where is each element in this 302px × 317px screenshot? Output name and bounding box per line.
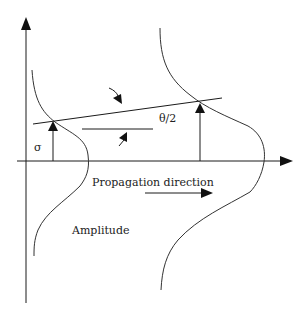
angle-lower-arrow-shaft [119,140,124,146]
vertical-axis-arrow-icon [21,17,31,30]
horizontal-axis-arrow-icon [280,156,293,166]
sigma-label: σ [34,141,42,154]
right-amplitude-curve [160,28,264,290]
tilted-wavefront-line [33,98,222,124]
angle-upper-arrow-shaft [109,88,118,96]
pulse-tilt-diagram: σ θ/2 Propagation direction Amplitude [0,0,302,317]
amplitude-label: Amplitude [71,224,130,237]
propagation-arrow-icon [201,188,213,198]
propagation-label: Propagation direction [92,176,214,189]
half-angle-label: θ/2 [159,112,176,125]
